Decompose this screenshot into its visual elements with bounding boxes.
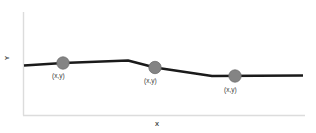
chart-screenshot: Y X (x,y) (x,y) (x,y) <box>0 0 316 133</box>
line-chart-canvas <box>0 0 316 133</box>
data-point-label: (x,y) <box>144 78 157 85</box>
data-point-marker[interactable] <box>229 70 241 82</box>
data-point-label: (x,y) <box>224 87 237 94</box>
x-axis-title: X <box>155 121 159 127</box>
data-point-marker[interactable] <box>149 61 161 73</box>
data-point-marker[interactable] <box>57 57 69 69</box>
y-axis-title: Y <box>4 56 10 60</box>
data-point-label: (x,y) <box>52 73 65 80</box>
